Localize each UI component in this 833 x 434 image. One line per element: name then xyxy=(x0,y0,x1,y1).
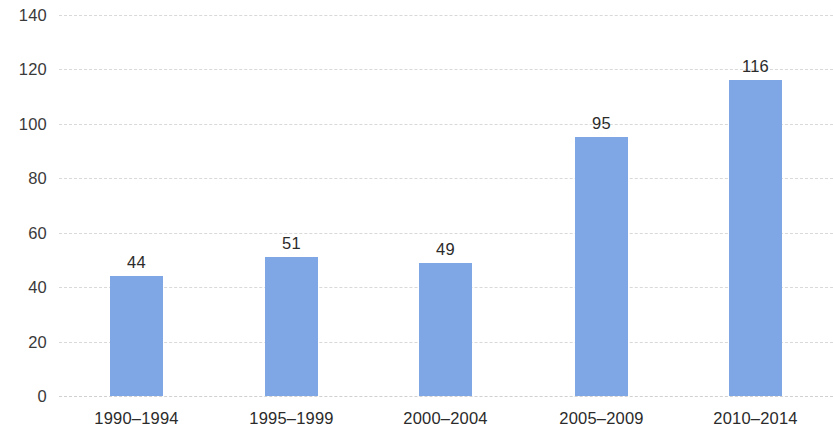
y-axis-tick-140: 140 xyxy=(0,7,47,24)
value-label-2010-2014: 116 xyxy=(742,58,769,75)
y-axis-tick-120: 120 xyxy=(0,61,47,78)
y-axis-tick-60: 60 xyxy=(0,224,47,241)
bar-1990-1994[interactable] xyxy=(110,276,163,396)
y-axis-tick-100: 100 xyxy=(0,116,47,133)
x-axis-label-2005-2009: 2005–2009 xyxy=(559,410,643,427)
y-axis-tick-0: 0 xyxy=(0,388,47,405)
x-axis-label-2010-2014: 2010–2014 xyxy=(713,410,797,427)
x-axis-label-1990-1994: 1990–1994 xyxy=(94,410,178,427)
bar-chart: 140 120 100 80 60 40 20 0 44 51 49 95 11… xyxy=(0,0,833,434)
value-label-2000-2004: 49 xyxy=(436,240,455,257)
x-axis-label-1995-1999: 1995–1999 xyxy=(249,410,333,427)
y-axis-tick-80: 80 xyxy=(0,170,47,187)
bar-2005-2009[interactable] xyxy=(575,137,628,396)
bar-2000-2004[interactable] xyxy=(419,263,472,396)
x-axis-label-2000-2004: 2000–2004 xyxy=(403,410,487,427)
bar-1995-1999[interactable] xyxy=(265,257,318,396)
value-label-1995-1999: 51 xyxy=(282,235,301,252)
y-axis-tick-40: 40 xyxy=(0,279,47,296)
plot-area xyxy=(59,15,833,396)
bar-2010-2014[interactable] xyxy=(729,80,782,396)
y-axis-tick-20: 20 xyxy=(0,333,47,350)
value-label-2005-2009: 95 xyxy=(592,115,611,132)
value-label-1990-1994: 44 xyxy=(127,254,146,271)
gridline-0-baseline xyxy=(59,396,833,397)
